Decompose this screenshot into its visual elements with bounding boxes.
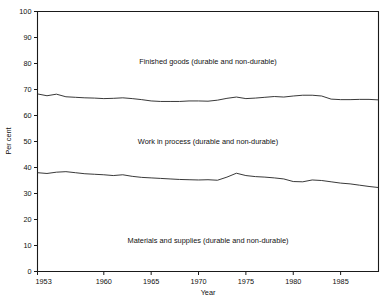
y-tick-label: 60 <box>23 111 31 120</box>
chart-background <box>0 0 387 303</box>
band-label-2: Materials and supplies (durable and non-… <box>127 236 288 245</box>
y-tick-label: 70 <box>23 85 31 94</box>
chart-figure: 0102030405060708090100 19531960196519701… <box>0 0 387 303</box>
y-tick-label: 10 <box>23 241 31 250</box>
x-tick-label: 1980 <box>285 277 301 286</box>
x-tick-label: 1965 <box>143 277 159 286</box>
x-axis-title: Year <box>201 288 216 297</box>
y-tick-label: 50 <box>23 137 31 146</box>
x-tick-label: 1985 <box>332 277 348 286</box>
y-tick-label: 20 <box>23 215 31 224</box>
x-tick-label: 1975 <box>238 277 254 286</box>
y-tick-label: 40 <box>23 163 31 172</box>
chart-svg: 0102030405060708090100 19531960196519701… <box>0 0 387 303</box>
y-tick-label: 90 <box>23 33 31 42</box>
y-tick-label: 80 <box>23 59 31 68</box>
x-tick-label: 1953 <box>36 277 52 286</box>
x-tick-label: 1970 <box>190 277 206 286</box>
x-tick-label: 1960 <box>96 277 112 286</box>
y-tick-label: 0 <box>27 267 31 276</box>
band-label-0: Finished goods (durable and non-durable) <box>139 57 277 66</box>
y-tick-label: 30 <box>23 189 31 198</box>
y-tick-label: 100 <box>19 7 31 16</box>
band-label-1: Work in process (durable and non-durable… <box>138 137 278 146</box>
y-axis-title: Per cent <box>4 127 13 154</box>
